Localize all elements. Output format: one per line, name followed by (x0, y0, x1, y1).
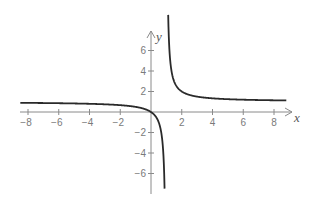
curves (20, 15, 286, 189)
x-tick-label: −2 (113, 117, 125, 128)
x-tick-label: −4 (82, 117, 94, 128)
y-tick-label: −6 (135, 168, 147, 179)
function-graph: x y −8−6−4−22468 642−2−4−6 (0, 0, 318, 203)
x-tick-label: 6 (240, 117, 246, 128)
curve-right-branch (168, 15, 286, 101)
y-tick-label: −4 (135, 148, 147, 159)
y-tick-label: 6 (140, 45, 146, 56)
x-tick-label: 8 (271, 117, 277, 128)
y-axis-label: y (154, 29, 162, 44)
y-tick-label: −2 (135, 127, 147, 138)
x-axis-label: x (293, 110, 300, 125)
y-tick-label: 2 (140, 86, 146, 97)
x-tick-label: −8 (20, 117, 32, 128)
x-tick-label: 2 (179, 117, 185, 128)
axes: x y (20, 29, 300, 194)
x-tick-label: −6 (51, 117, 63, 128)
y-tick-label: 4 (140, 66, 146, 77)
x-tick-label: 4 (210, 117, 216, 128)
